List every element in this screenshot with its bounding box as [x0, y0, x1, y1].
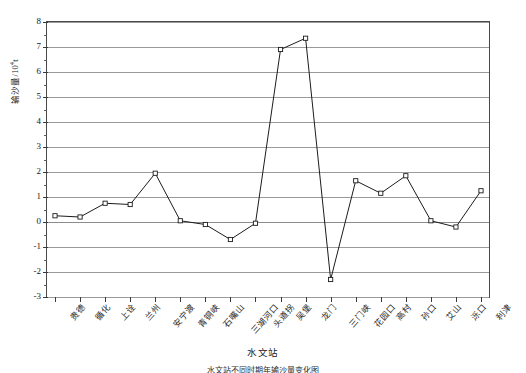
- x-axis-tick-label: 利津: [495, 303, 514, 322]
- data-point-marker: [404, 174, 408, 178]
- data-point-marker: [329, 277, 333, 281]
- x-axis-tick-label: 兰州: [144, 303, 163, 322]
- x-axis-tick: [155, 297, 156, 302]
- y-axis-tick-label: 7: [37, 42, 42, 51]
- x-axis-tick: [55, 297, 56, 302]
- y-axis-tick-label: 5: [37, 92, 42, 101]
- data-point-marker: [379, 191, 383, 195]
- figure-caption: 水文站不同时期年输沙量变化图: [0, 364, 526, 373]
- x-axis-tick-label: 龙门: [320, 303, 339, 322]
- data-point-marker: [228, 237, 232, 241]
- plot-area: 876543210-1-2-3: [46, 21, 490, 298]
- data-point-marker: [479, 189, 483, 193]
- y-axis-tick-label: 3: [37, 142, 42, 151]
- x-axis-tick: [356, 297, 357, 302]
- y-axis-title-superscript: 4: [9, 62, 15, 65]
- x-axis-tick: [205, 297, 206, 302]
- y-axis-tick-label: 0: [37, 217, 42, 226]
- x-axis-tick: [281, 297, 282, 302]
- y-axis-tick-label: -3: [34, 292, 42, 301]
- x-axis-tick: [230, 297, 231, 302]
- y-axis-tick-label: 1: [37, 192, 42, 201]
- x-axis-tick: [105, 297, 106, 302]
- x-axis-tick-label: 石嘴山: [222, 303, 247, 329]
- y-axis-title: 输沙量/104t: [8, 4, 22, 104]
- x-axis-tick-label: 循化: [94, 303, 113, 322]
- x-axis-tick: [381, 297, 382, 302]
- x-axis-tick-label: 孙口: [420, 303, 439, 322]
- x-axis-tick-label: 青铜峡: [197, 303, 222, 329]
- data-point-marker: [454, 225, 458, 229]
- data-point-marker: [253, 221, 257, 225]
- data-point-marker: [103, 201, 107, 205]
- y-axis-tick-label: 8: [37, 17, 42, 26]
- y-axis-tick-label: 2: [37, 167, 42, 176]
- x-axis-tick: [255, 297, 256, 302]
- x-axis-tick-label: 高村: [395, 303, 414, 322]
- x-axis-tick-label: 三门峡: [348, 303, 373, 329]
- x-axis-tick-label: 上诠: [119, 303, 138, 322]
- data-point-marker: [53, 214, 57, 218]
- data-series-line: [47, 22, 489, 297]
- y-axis-tick: [43, 297, 48, 298]
- x-axis-tick: [80, 297, 81, 302]
- x-axis-title: 水文站: [0, 345, 526, 359]
- x-axis-tick: [180, 297, 181, 302]
- data-point-marker: [354, 179, 358, 183]
- series-polyline: [55, 38, 481, 279]
- data-point-marker: [429, 219, 433, 223]
- x-axis-tick-label: 泺口: [470, 303, 489, 322]
- x-axis-tick-label: 吴堡: [294, 303, 313, 322]
- y-axis-tick-label: -2: [34, 267, 42, 276]
- y-axis-tick-label: 6: [37, 67, 42, 76]
- y-axis-tick-label: -1: [34, 242, 42, 251]
- x-axis-tick-label: 艾山: [445, 303, 464, 322]
- data-point-marker: [303, 36, 307, 40]
- gridline: [47, 297, 489, 298]
- data-point-marker: [278, 47, 282, 51]
- y-axis-tick-label: 4: [37, 117, 42, 126]
- data-point-marker: [128, 202, 132, 206]
- y-axis-title-unit: t: [10, 59, 20, 62]
- data-point-marker: [203, 222, 207, 226]
- chart-figure: 输沙量/104t 876543210-1-2-3 贵德循化上诠兰州安宁渡青铜峡石…: [0, 0, 526, 373]
- y-axis-title-main: 输沙量/10: [10, 65, 20, 104]
- data-point-marker: [153, 171, 157, 175]
- data-point-marker: [78, 215, 82, 219]
- data-point-marker: [178, 219, 182, 223]
- x-axis-tick-label: 安宁渡: [172, 303, 197, 329]
- x-axis-tick: [130, 297, 131, 302]
- x-axis-tick-label: 贵德: [69, 303, 88, 322]
